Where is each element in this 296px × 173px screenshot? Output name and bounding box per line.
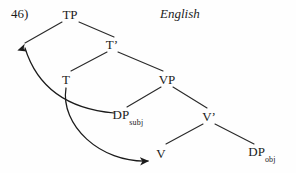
node-label: V <box>202 109 211 124</box>
node-subscript: obj <box>265 154 276 163</box>
tree-node-t: T <box>62 73 70 86</box>
tree-node-vp: VP <box>159 73 176 86</box>
tree-node-layer: TPT’TVPDPsubjV’VDPobj <box>0 0 296 173</box>
node-label: DP <box>248 144 265 159</box>
node-label: DP <box>113 107 130 122</box>
node-prime-mark: ’ <box>212 109 216 124</box>
tree-node-tbar: T’ <box>106 38 118 51</box>
tree-node-tp: TP <box>62 8 77 21</box>
tree-node-dpobj: DPobj <box>248 145 275 162</box>
syntax-tree-figure: 46) English TPT’TVPDPsubjV’VDPobj <box>0 0 296 173</box>
node-label: T <box>106 37 114 52</box>
node-label: VP <box>159 72 176 87</box>
node-subscript: subj <box>129 117 143 126</box>
node-prime-mark: ’ <box>114 37 118 52</box>
tree-node-vbar: V’ <box>202 110 216 123</box>
tree-node-dpsubj: DPsubj <box>113 108 144 125</box>
tree-node-v: V <box>156 147 165 160</box>
node-label: TP <box>62 7 77 22</box>
node-label: T <box>62 72 70 87</box>
node-label: V <box>156 146 165 161</box>
